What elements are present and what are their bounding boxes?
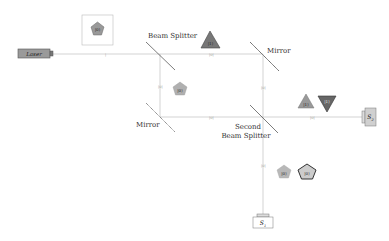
tick-s1: |0| <box>261 164 266 168</box>
upper-path-state: |1⟩ <box>201 31 220 48</box>
tick-laser: | <box>105 53 106 57</box>
svg-text:|0⟩: |0⟩ <box>281 171 287 176</box>
detector-s2: S2 <box>362 108 376 126</box>
detector-s1: S1 <box>253 214 273 228</box>
tick-left: |0| <box>158 85 163 89</box>
tick-upper: |0| <box>209 53 214 57</box>
svg-text:|0⟩: |0⟩ <box>177 88 183 93</box>
second-splitter-label-2: Beam Splitter <box>221 132 271 140</box>
s1-state-pentagon-light: |0⟩ <box>277 165 291 178</box>
interferometer-diagram: | |0| |0| |0| |0| |0| |0| Laser |0⟩ Beam… <box>0 0 389 241</box>
svg-text:|1⟩: |1⟩ <box>303 102 309 107</box>
mirror-bottom-label: Mirror <box>136 121 160 129</box>
svg-text:|1⟩: |1⟩ <box>324 99 330 104</box>
tick-right: |0| <box>261 86 266 90</box>
tick-lower: |0| <box>209 116 214 120</box>
s2-state-triangle-down: |1⟩ <box>318 96 336 112</box>
lower-path-state: |0⟩ <box>173 82 187 95</box>
s2-state-triangle-up: |1⟩ <box>298 94 314 108</box>
svg-text:|1⟩: |1⟩ <box>208 41 214 46</box>
svg-text:|0⟩: |0⟩ <box>95 27 101 32</box>
laser: Laser <box>18 49 53 58</box>
laser-label: Laser <box>25 51 42 57</box>
mirror-top-label: Mirror <box>267 47 291 55</box>
input-state-box: |0⟩ <box>82 15 113 45</box>
beam-splitter-1 <box>146 42 175 70</box>
tick-s2: |0| <box>310 116 315 120</box>
svg-text:|0⟩: |0⟩ <box>304 171 310 176</box>
s1-state-pentagon-dark: |0⟩ <box>298 164 316 179</box>
second-splitter-label-1: Second <box>235 123 262 131</box>
beam-splitter-label: Beam Splitter <box>148 32 198 40</box>
